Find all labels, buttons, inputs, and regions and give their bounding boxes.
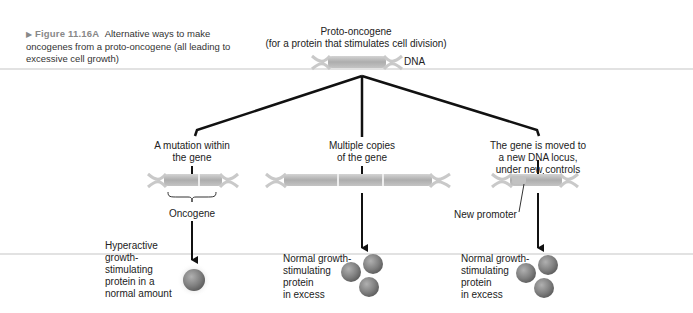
- branch1-heading: A mutation within the gene: [132, 140, 252, 164]
- branch3-heading: The gene is moved to a new DNA locus, un…: [473, 140, 603, 176]
- result-line: stimulating: [461, 265, 529, 277]
- result-line: protein: [283, 277, 351, 289]
- result-line: Normal growth-: [461, 253, 529, 265]
- oncogene-label: Oncogene: [152, 208, 232, 220]
- branch3-heading-line3: under new controls: [473, 164, 603, 176]
- branch2-heading: Multiple copies of the gene: [302, 140, 422, 164]
- branch3-heading-line1: The gene is moved to: [473, 140, 603, 152]
- branch2-result: Normal growth- stimulating protein in ex…: [283, 253, 351, 301]
- branch1-heading-line1: A mutation within: [132, 140, 252, 152]
- result-line: stimulating: [105, 264, 172, 276]
- branch1-heading-line2: the gene: [132, 152, 252, 164]
- branch2-heading-line2: of the gene: [302, 152, 422, 164]
- branch1-result: Hyperactive growth- stimulating protein …: [105, 240, 172, 300]
- result-line: in excess: [283, 289, 351, 301]
- result-line: normal amount: [105, 288, 172, 300]
- branch2-heading-line1: Multiple copies: [302, 140, 422, 152]
- result-line: Normal growth-: [283, 253, 351, 265]
- branch3-result: Normal growth- stimulating protein in ex…: [461, 253, 529, 301]
- hyperactive-protein: [177, 263, 211, 297]
- new-promoter-leader: [519, 184, 524, 212]
- new-promoter-label: New promoter: [454, 209, 517, 221]
- branch1-dna-strand: [148, 174, 238, 187]
- top-dna-strand: [312, 56, 402, 69]
- result-line: protein in a: [105, 276, 172, 288]
- branch3-heading-line2: a new DNA locus,: [473, 152, 603, 164]
- result-line: Hyperactive: [105, 240, 172, 252]
- result-line: growth-: [105, 252, 172, 264]
- result-line: protein: [461, 277, 529, 289]
- result-line: in excess: [461, 289, 529, 301]
- branch-lines: [195, 76, 539, 137]
- branch2-dna-strand: [266, 174, 450, 187]
- result-line: stimulating: [283, 265, 351, 277]
- oncogene-brace: [168, 192, 216, 202]
